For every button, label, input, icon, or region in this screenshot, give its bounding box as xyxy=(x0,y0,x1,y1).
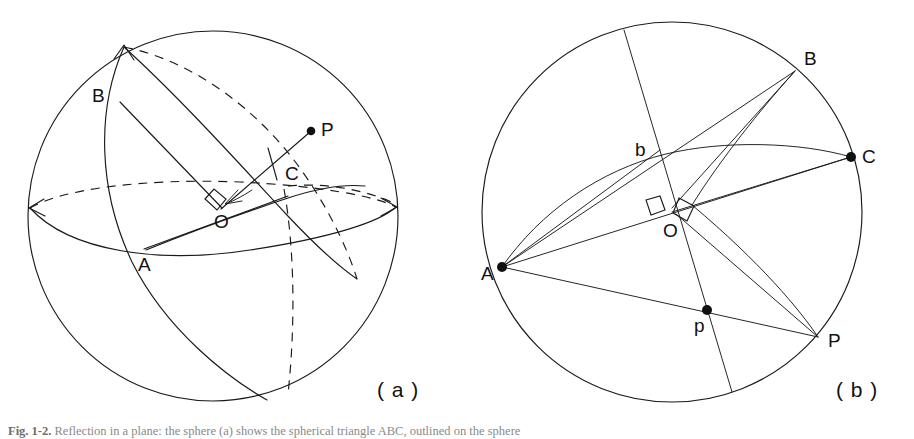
equator-back-arc xyxy=(30,181,396,208)
figure-caption-band: Fig. 1-2. Reflection in a plane: the sph… xyxy=(0,424,914,439)
point-label-C: C xyxy=(285,163,299,184)
tick-near-c xyxy=(268,148,277,180)
chord-o-b xyxy=(672,71,795,208)
plane-oc-front-arc xyxy=(146,186,365,251)
point-dot-P xyxy=(307,127,316,136)
point-label-C-b: C xyxy=(862,146,876,167)
point-label-P-b: P xyxy=(828,330,841,351)
point-label-A-b: A xyxy=(481,263,494,284)
point-label-O: O xyxy=(214,211,229,232)
chord-a-b-lower xyxy=(502,150,660,267)
chord-o-c xyxy=(672,157,851,212)
meridian-ab-front xyxy=(105,47,267,400)
point-dot-C xyxy=(846,152,856,162)
chord-a-p xyxy=(502,267,818,337)
point-dot-A xyxy=(497,262,507,272)
segment-b-o xyxy=(120,102,222,208)
right-angle-mark-o-left xyxy=(646,196,665,215)
figure-canvas: B A C O P ( a ) xyxy=(0,0,914,439)
panel-a: B A C O P ( a ) xyxy=(28,31,419,401)
point-label-b-b: b xyxy=(635,139,646,160)
point-label-P: P xyxy=(321,119,334,140)
panel-b: A B b C O p P ( b ) xyxy=(481,22,878,402)
chord-a-b xyxy=(502,71,795,267)
figure-caption: Fig. 1-2. Reflection in a plane: the sph… xyxy=(8,424,908,439)
panel-label-b: ( b ) xyxy=(836,378,878,401)
arc-b-o-p xyxy=(692,71,818,337)
point-label-A: A xyxy=(138,254,151,275)
caption-prefix: Fig. 1-2. xyxy=(8,424,51,438)
point-label-p-b: p xyxy=(694,315,705,336)
sphere-outline xyxy=(28,31,398,401)
panel-label-a: ( a ) xyxy=(377,378,419,401)
equator-front-arc xyxy=(30,207,396,256)
point-dot-p xyxy=(702,305,712,315)
plane-oc-dashed-arc xyxy=(288,185,398,205)
point-label-B: B xyxy=(92,85,105,106)
point-label-B-b: B xyxy=(804,48,817,69)
chord-through-b-o-p xyxy=(624,30,732,392)
caption-body: Reflection in a plane: the sphere (a) sh… xyxy=(55,424,521,438)
figure-root: B A C O P ( a ) xyxy=(0,0,914,439)
point-label-O-b: O xyxy=(663,220,678,241)
